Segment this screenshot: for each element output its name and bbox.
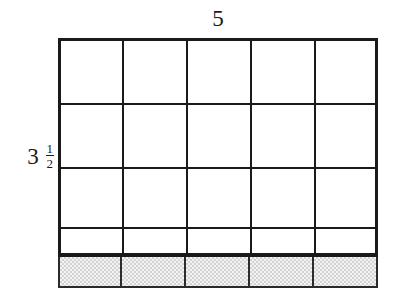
- grid-horizontal-line-2: [61, 167, 375, 169]
- fraction-numerator: 1: [46, 142, 55, 155]
- grid-vertical-line-2: [186, 41, 188, 254]
- area-model-rectangle: [58, 38, 378, 257]
- fraction: 1 2: [46, 142, 55, 171]
- height-label: 3 1 2: [8, 142, 54, 171]
- shaded-vertical-line-2: [184, 257, 186, 286]
- grid-vertical-line-4: [314, 41, 316, 254]
- shaded-half-unit-strip: [58, 257, 378, 288]
- grid-vertical-line-3: [250, 41, 252, 254]
- grid-vertical-line-1: [122, 41, 124, 254]
- mixed-number: 3 1 2: [27, 142, 54, 171]
- shaded-vertical-line-4: [312, 257, 314, 286]
- shaded-vertical-line-1: [120, 257, 122, 286]
- fraction-denominator: 2: [46, 157, 55, 170]
- shaded-vertical-line-3: [248, 257, 250, 286]
- grid-horizontal-line-3: [61, 227, 375, 229]
- diagram-canvas: 5 3 1 2: [0, 0, 397, 308]
- whole-number: 3: [27, 144, 39, 169]
- grid-horizontal-line-1: [61, 103, 375, 105]
- width-label: 5: [58, 4, 378, 34]
